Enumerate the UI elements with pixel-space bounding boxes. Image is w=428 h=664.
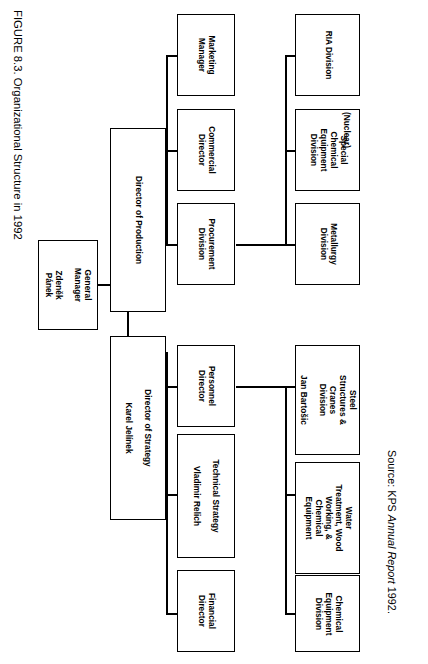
water-treatment-inner: Water Treatment, Wood Working, & Chemica… — [303, 484, 353, 551]
personnel-director-box[interactable]: Personnel Director — [177, 345, 235, 427]
financial-director-inner: Financial Director — [196, 593, 216, 629]
source-italic-portrait: Annual Report — [386, 515, 398, 584]
ria-division-inner: RIA Division — [323, 31, 333, 80]
director-strategy-name: Karel Jelínek — [124, 389, 134, 466]
water-treatment-text: Water Treatment, Wood Working, & Chemica… — [304, 484, 354, 551]
strategy-division-feed — [236, 386, 286, 388]
commercial-director-inner: Commercial Director — [196, 126, 216, 174]
chemical-equipment-box[interactable]: Chemical Equipment Division — [295, 575, 360, 652]
metallurgy-division-inner: Metallurgy Division — [318, 223, 338, 265]
director-strategy-text: Director of Strategy — [143, 389, 153, 466]
commercial-director-box[interactable]: Commercial Director — [177, 109, 235, 191]
ria-division-text: RIA Division — [323, 31, 333, 80]
metallurgy-division-text: Metallurgy Division — [319, 223, 339, 265]
financial-director-text: Financial Director — [197, 593, 217, 629]
production-division-feed — [236, 244, 286, 246]
metallurgy-division-box[interactable]: Metallurgy Division — [295, 203, 360, 285]
procurement-division-text: Procurement Division — [197, 218, 217, 269]
ria-division-box[interactable]: RIA Division — [295, 14, 360, 96]
nuclear-note: (Nuclear) — [342, 112, 352, 148]
procurement-division-inner: Procurement Division — [196, 218, 216, 269]
steel-structures-name: Jan Bartošic — [298, 375, 308, 425]
director-strategy-box[interactable]: Director of StrategyKarel Jelínek — [110, 336, 166, 520]
marketing-manager-inner: Marketing Manager — [196, 35, 216, 74]
chemical-equipment-text: Chemical Equipment Division — [314, 592, 344, 635]
gm-inner: General ManagerZdeněk Pánek — [44, 268, 93, 302]
strategy-division-spine — [285, 386, 287, 614]
director-strategy-inner: Director of StrategyKarel Jelínek — [124, 389, 153, 466]
water-treatment-box[interactable]: Water Treatment, Wood Working, & Chemica… — [295, 462, 360, 574]
chemical-equipment-inner: Chemical Equipment Division — [313, 592, 343, 635]
technical-strategy-inner: Technical StrategyVladimir Relich — [192, 459, 221, 532]
steel-structures-box[interactable]: Steel Structures & Cranes DivisionJan Ba… — [295, 345, 360, 455]
steel-structures-text: Steel Structures & Cranes Division — [318, 375, 358, 425]
commercial-director-text: Commercial Director — [197, 126, 217, 174]
director-production-text: Director of Production — [134, 176, 144, 264]
org-chart-figure: FIGURE 8.3. Organizational Structure in … — [0, 0, 428, 664]
figure-title-portrait: FIGURE 8.3. Organizational Structure in … — [12, 10, 24, 260]
strategy-report-spine — [166, 352, 168, 614]
technical-strategy-name: Vladimir Relich — [192, 459, 202, 532]
source-note-portrait: Source: KPS Annual Report 1992. — [386, 450, 398, 614]
gm-person: Zdeněk Pánek — [44, 268, 64, 302]
source-prefix-portrait: Source: KPS — [386, 450, 398, 515]
marketing-manager-box[interactable]: Marketing Manager — [177, 14, 235, 96]
personnel-director-text: Personnel Director — [197, 366, 217, 406]
director-production-box[interactable]: Director of Production — [110, 128, 166, 312]
technical-strategy-text: Technical Strategy — [211, 459, 221, 532]
technical-strategy-box[interactable]: Technical StrategyVladimir Relich — [177, 434, 235, 558]
procurement-division-box[interactable]: Procurement Division — [177, 203, 235, 285]
director-production-inner: Director of Production — [133, 176, 143, 264]
source-suffix-portrait: 1992. — [386, 584, 398, 614]
personnel-director-inner: Personnel Director — [196, 366, 216, 406]
financial-director-box[interactable]: Financial Director — [177, 570, 235, 652]
steel-structures-inner: Steel Structures & Cranes DivisionJan Ba… — [298, 375, 357, 425]
marketing-manager-text: Marketing Manager — [197, 35, 217, 74]
gm-title: General Manager — [73, 268, 93, 302]
gm-box[interactable]: General ManagerZdeněk Pánek — [38, 240, 98, 330]
